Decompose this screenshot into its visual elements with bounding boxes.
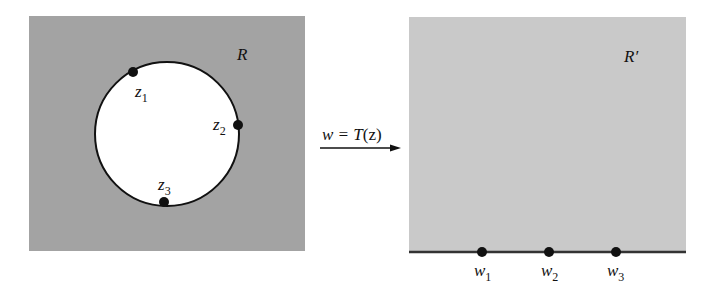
label-w2: w2: [541, 261, 558, 284]
region-r-prime-label: R′: [623, 47, 638, 66]
point-w3: [611, 247, 621, 257]
label-w1: w1: [474, 261, 491, 284]
point-z3: [159, 197, 169, 207]
diagram-canvas: R z1 z2 z3 w = T(z) R′ w1 w2 w3: [0, 0, 709, 298]
point-w2: [544, 247, 554, 257]
mapping-label: w = T(z): [322, 125, 382, 144]
region-r-prime: [409, 17, 686, 252]
point-w1: [477, 247, 487, 257]
conformal-map-diagram: R z1 z2 z3 w = T(z) R′ w1 w2 w3: [0, 0, 709, 298]
point-z1: [128, 67, 138, 77]
region-r-label: R: [236, 45, 248, 64]
point-z2: [233, 120, 243, 130]
arrow-head-icon: [390, 145, 401, 152]
label-w3: w3: [607, 261, 624, 284]
